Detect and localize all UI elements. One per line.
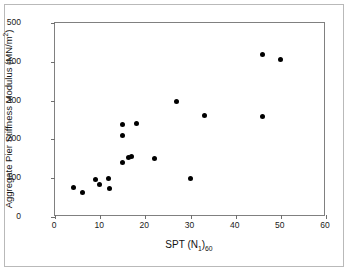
data-point: [260, 52, 265, 57]
x-axis-tick-label: 20: [140, 221, 149, 230]
data-point: [278, 57, 283, 62]
x-axis-tick: [326, 215, 327, 219]
y-axis-tick: [51, 62, 55, 63]
x-axis-tick: [191, 215, 192, 219]
data-point: [260, 114, 265, 119]
x-axis-tick-label: 0: [52, 221, 57, 230]
data-point: [120, 133, 125, 138]
data-point: [188, 176, 193, 181]
x-axis-title-subscript-60: 60: [205, 245, 213, 252]
x-axis-title: SPT (N1)60: [165, 240, 212, 250]
data-point: [80, 190, 85, 195]
data-point: [152, 156, 157, 161]
x-axis-tick-label: 40: [230, 221, 239, 230]
y-axis-tick-label: 100: [7, 173, 21, 182]
data-point: [129, 154, 134, 159]
x-axis-tick-label: 50: [275, 221, 284, 230]
x-axis-tick: [281, 215, 282, 219]
data-point: [71, 185, 76, 190]
x-axis-title-prefix: SPT (N: [165, 239, 198, 250]
y-axis-title-superscript: 2: [2, 33, 9, 37]
y-axis-tick: [51, 139, 55, 140]
x-axis-tick-label: 30: [185, 221, 194, 230]
x-axis-tick: [100, 215, 101, 219]
data-point: [120, 122, 125, 127]
x-axis-tick-label: 60: [320, 221, 329, 230]
data-point: [107, 186, 112, 191]
x-axis-tick: [145, 215, 146, 219]
y-axis-tick-label: 500: [7, 18, 21, 27]
x-axis-tick: [236, 215, 237, 219]
plot-area: [54, 22, 325, 216]
data-point: [97, 182, 102, 187]
y-axis-tick: [51, 101, 55, 102]
data-point: [202, 113, 207, 118]
y-axis-tick-label: 0: [16, 212, 21, 221]
x-axis-tick: [55, 215, 56, 219]
data-point: [174, 99, 179, 104]
scatter-chart: Aggregate Pier Stiffness Modulus (MN/m2)…: [0, 0, 352, 275]
y-axis-tick: [51, 23, 55, 24]
data-point: [134, 121, 139, 126]
y-axis-tick-label: 400: [7, 57, 21, 66]
y-axis-title-suffix: ): [3, 30, 14, 33]
x-axis-tick-label: 10: [94, 221, 103, 230]
y-axis-tick: [51, 178, 55, 179]
data-point: [93, 177, 98, 182]
data-point: [106, 176, 111, 181]
data-point: [120, 160, 125, 165]
y-axis-tick-label: 200: [7, 134, 21, 143]
y-axis-tick-label: 300: [7, 95, 21, 104]
